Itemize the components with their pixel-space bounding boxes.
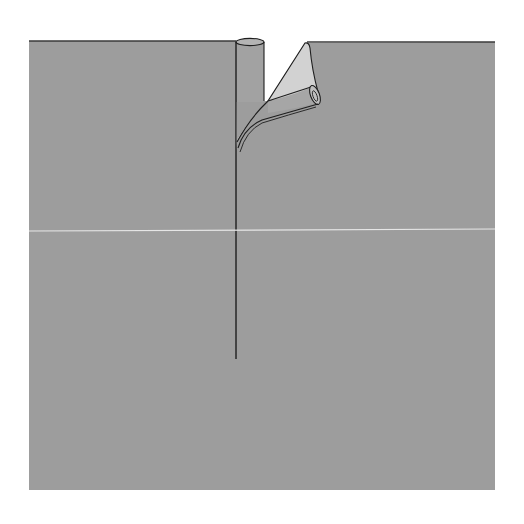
rolled-edge-cylinder — [236, 38, 264, 102]
cylinder-top-ellipse — [236, 38, 264, 45]
sheet-left-panel — [29, 41, 236, 490]
diagram-canvas: Illustration of a gray sheet with a vert… — [0, 0, 524, 524]
sheet-illustration — [0, 0, 524, 524]
